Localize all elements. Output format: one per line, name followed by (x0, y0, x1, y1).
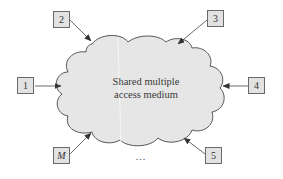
arrow-2 (70, 20, 91, 41)
station-box-1: 1 (17, 77, 34, 94)
medium-label-line1: Shared multiple (98, 76, 194, 89)
station-box-m: M (53, 147, 70, 164)
station-box-2: 2 (53, 11, 70, 28)
station-box-4: 4 (248, 77, 265, 94)
medium-label-line2: access medium (98, 89, 194, 102)
station-box-5: 5 (205, 147, 222, 164)
medium-label: Shared multiple access medium (98, 76, 194, 101)
arrow-m (70, 133, 91, 154)
station-box-3: 3 (207, 10, 224, 27)
shared-medium-diagram: Shared multiple access medium 1 2 3 4 5 … (0, 0, 283, 179)
arrow-3 (178, 20, 207, 44)
ellipsis: ... (131, 151, 151, 162)
arrow-5 (184, 138, 205, 154)
